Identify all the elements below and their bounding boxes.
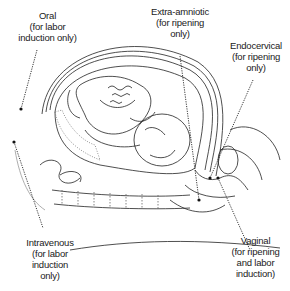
anatomy-lines bbox=[15, 47, 280, 250]
pointer-lines bbox=[14, 50, 253, 250]
label-line: Endocervical bbox=[222, 40, 290, 51]
label-line: only) bbox=[222, 62, 290, 73]
endocervical-pointer bbox=[210, 80, 253, 178]
label-line: induction) bbox=[223, 268, 288, 279]
extra-amniotic-pointer bbox=[180, 56, 199, 200]
label-vaginal: Vaginal (for ripening and labor inductio… bbox=[223, 235, 288, 279]
label-intravenous: Intravenous (for labor induction only) bbox=[15, 237, 85, 281]
label-line: induction bbox=[15, 259, 85, 270]
label-line: Vaginal bbox=[223, 235, 288, 246]
label-extra-amniotic: Extra-amniotic (for ripening only) bbox=[140, 6, 220, 39]
label-endocervical: Endocervical (for ripening only) bbox=[222, 40, 290, 73]
label-line: (for ripening bbox=[222, 51, 290, 62]
label-line: (for labor bbox=[5, 21, 90, 32]
label-line: Extra-amniotic bbox=[140, 6, 220, 17]
oral-pointer bbox=[21, 50, 37, 109]
label-line: only) bbox=[15, 270, 85, 281]
label-line: and labor bbox=[223, 257, 288, 268]
label-line: only) bbox=[140, 28, 220, 39]
intravenous-pointer bbox=[14, 142, 43, 228]
label-line: (for labor bbox=[15, 248, 85, 259]
label-line: (for ripening bbox=[223, 246, 288, 257]
pointer-dots bbox=[12, 107, 219, 201]
label-oral: Oral (for labor induction only) bbox=[5, 10, 90, 43]
label-line: induction only) bbox=[5, 32, 90, 43]
label-line: Oral bbox=[5, 10, 90, 21]
label-line: (for ripening bbox=[140, 17, 220, 28]
label-line: Intravenous bbox=[15, 237, 85, 248]
